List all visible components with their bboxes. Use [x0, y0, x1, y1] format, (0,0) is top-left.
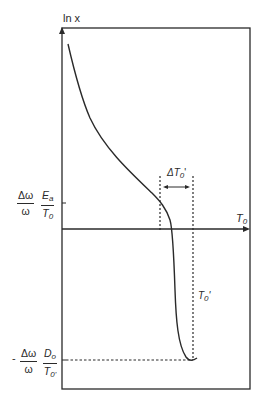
upper-frac2-num-sub: a: [49, 194, 53, 203]
upper-frac2-den-sub: 0: [49, 212, 53, 221]
lower-frac-do-t0prime: Do T0': [43, 348, 57, 379]
t0-prime-label: T0': [198, 291, 210, 303]
y-axis-label-text: ln x: [63, 12, 80, 24]
lower-minus-sign: -: [12, 353, 16, 364]
lower-frac1-den: ω: [25, 362, 33, 375]
lower-prefix: -: [12, 352, 16, 364]
delta-t0-prime-label: ΔT0': [167, 168, 186, 180]
delta-arrow-right-icon: [185, 185, 190, 189]
delta-arrow-left-icon: [163, 185, 168, 189]
upper-frac-delta-omega: Δω ω: [17, 190, 34, 216]
x-axis-label: T0: [236, 213, 247, 226]
x-axis-label-sub: 0: [243, 217, 247, 226]
x-axis-arrow-icon: [243, 226, 250, 232]
lower-frac2-den-sub: 0': [50, 370, 56, 379]
x-axis-label-text: T: [236, 212, 243, 224]
y-axis-label: ln x: [63, 13, 80, 24]
delta-label-text: ΔT: [167, 167, 180, 178]
t0-prime-label-prime: ': [209, 290, 211, 301]
ln-x-curve: [68, 44, 197, 360]
delta-label-prime: ': [184, 167, 186, 178]
upper-frac1-num: Δω: [17, 190, 34, 204]
lower-frac1-num: Δω: [20, 348, 37, 362]
upper-frac1-den: ω: [22, 204, 30, 217]
lower-frac2-num: D: [44, 347, 52, 359]
plot-frame: [62, 28, 250, 389]
diagram-canvas: [0, 0, 265, 407]
lower-frac-delta-omega: Δω ω: [20, 348, 37, 374]
upper-frac2-num: E: [42, 189, 49, 201]
upper-frac-ea-t0: Ea T0: [41, 190, 54, 221]
lower-frac2-num-sub: o: [52, 352, 56, 361]
